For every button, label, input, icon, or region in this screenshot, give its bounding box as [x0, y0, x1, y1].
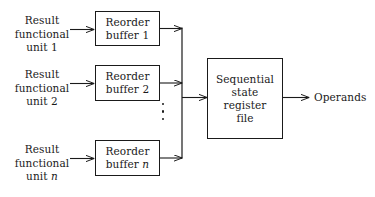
reorder-buffer-n-line1: Reorder	[105, 145, 149, 158]
diagram-canvas: Result functional unit 1 Result function…	[0, 0, 375, 197]
ellipsis-dot	[162, 110, 164, 112]
source-unit-2-line3: unit 2	[14, 95, 70, 109]
source-unit-2: Result functional unit 2	[14, 68, 70, 109]
reorder-buffer-n-box[interactable]: Reorder buffer n	[95, 140, 160, 176]
source-unit-n-line3: unit n	[14, 170, 70, 184]
reorder-buffer-2-box[interactable]: Reorder buffer 2	[95, 65, 160, 101]
reorder-buffer-2-line1: Reorder	[105, 70, 149, 83]
source-unit-1: Result functional unit 1	[14, 14, 70, 55]
source-unit-2-line1: Result	[14, 68, 70, 82]
ellipsis-dot	[162, 103, 164, 105]
reorder-buffer-1-box[interactable]: Reorder buffer 1	[95, 11, 160, 46]
source-unit-1-line3: unit 1	[14, 41, 70, 55]
reorder-buffer-n-line2: buffer n	[106, 158, 149, 171]
vertical-ellipsis-icon	[162, 103, 164, 120]
register-file-line1: Sequential	[216, 73, 274, 86]
source-unit-n-line1: Result	[14, 143, 70, 157]
source-unit-n: Result functional unit n	[14, 143, 70, 184]
reorder-buffer-1-line2: buffer 1	[106, 29, 149, 42]
reorder-buffer-1-line1: Reorder	[105, 16, 149, 29]
source-unit-1-line2: functional	[14, 28, 70, 42]
source-unit-2-line2: functional	[14, 82, 70, 96]
source-unit-1-line1: Result	[14, 14, 70, 28]
register-file-line2: state	[232, 86, 259, 99]
reorder-buffer-2-line2: buffer 2	[106, 83, 149, 96]
register-file-line3: register	[224, 99, 267, 112]
sequential-state-register-file-box[interactable]: Sequential state register file	[207, 58, 283, 139]
operands-label: Operands	[314, 91, 367, 103]
source-unit-n-line2: functional	[14, 157, 70, 171]
register-file-line4: file	[236, 112, 253, 125]
ellipsis-dot	[162, 118, 164, 120]
